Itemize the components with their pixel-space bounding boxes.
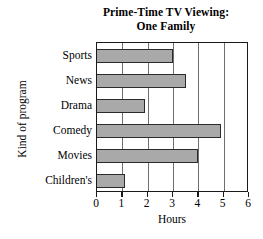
x-tick-label-5: 5 [214, 197, 232, 210]
x-tick-label-4: 4 [188, 197, 206, 210]
x-tick-label-2: 2 [138, 197, 156, 210]
bar-news [97, 74, 186, 88]
y-tick-label-comedy: Comedy [0, 124, 92, 136]
bar-comedy [97, 124, 221, 138]
y-tick-label-movies: Movies [0, 149, 92, 161]
x-axis-tick-labels: 0 1 2 3 4 5 6 [96, 197, 248, 211]
bar-drama [97, 99, 145, 113]
y-tick-label-drama: Drama [0, 99, 92, 111]
x-axis-title: Hours [96, 212, 248, 226]
x-tick-label-3: 3 [163, 197, 181, 210]
chart-title: Prime-Time TV Viewing: One Family [74, 6, 258, 33]
bar-childrens [97, 174, 125, 188]
y-tick-label-news: News [0, 74, 92, 86]
y-tick-label-sports: Sports [0, 49, 92, 61]
x-tick-label-6: 6 [239, 197, 257, 210]
chart-title-line-1: Prime-Time TV Viewing: [74, 6, 258, 20]
bar-sports [97, 49, 173, 63]
chart-title-line-2: One Family [74, 20, 258, 34]
x-tick-label-0: 0 [87, 197, 105, 210]
y-axis-tick-labels: Sports News Drama Comedy Movies Children… [0, 42, 92, 192]
bar-chart-figure: Prime-Time TV Viewing: One Family Kind o… [0, 0, 263, 239]
x-tick-label-1: 1 [112, 197, 130, 210]
bar-movies [97, 149, 198, 163]
y-tick-label-childrens: Children's [0, 174, 92, 186]
bars-layer [97, 43, 247, 191]
plot-area [96, 42, 248, 192]
